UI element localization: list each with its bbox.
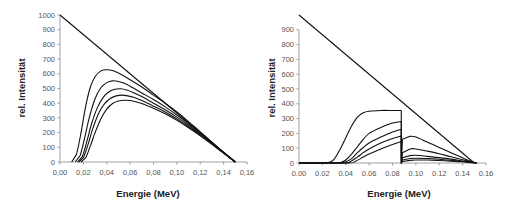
chart-right-x-tick-label: 0.10	[409, 169, 424, 178]
chart-right-y-tick-label: 900	[281, 25, 294, 34]
chart-left-y-tick-label: 1000	[38, 11, 55, 20]
chart-left-series-filter-3	[78, 89, 236, 162]
chart-right-x-tick-label: 0.14	[455, 169, 470, 178]
chart-left-y-tick-label: 300	[42, 114, 55, 123]
chart-right-y-tick-label: 200	[281, 129, 294, 138]
chart-right-series-filter-1	[299, 110, 477, 163]
chart-left-x-tick-label: 0,08	[146, 168, 161, 177]
chart-left-y-tick-label: 200	[42, 128, 55, 137]
chart-left-y-tick-label: 700	[42, 55, 55, 64]
chart-left-x-tick-label: 0,12	[193, 168, 208, 177]
chart-left-x-tick-label: 0,16	[240, 168, 255, 177]
chart-left-x-tick-label: 0,06	[123, 168, 138, 177]
chart-right-x-tick-label: 0.08	[385, 169, 400, 178]
chart-right-xlabel: Energie (MeV)	[367, 188, 430, 199]
chart-right-x-tick-label: 0.02	[315, 169, 330, 178]
chart-left-x-tick-label: 0,04	[99, 168, 114, 177]
chart-left-panel: rel. Intensität Energie (MeV) 0100200300…	[16, 11, 254, 199]
chart-left-y-tick-label: 900	[42, 25, 55, 34]
chart-right-ylabel: rel. Intensität	[266, 58, 277, 118]
chart-left-x-tick-label: 0,02	[76, 168, 91, 177]
chart-left-x-tick-label: 0,14	[216, 168, 231, 177]
chart-right-x-tick-label: 0.12	[432, 169, 447, 178]
chart-left-y-tick-label: 600	[42, 69, 55, 78]
chart-left-series-filter-5	[81, 100, 235, 162]
chart-right-y-tick-label: 600	[281, 70, 294, 79]
chart-right-x-tick-label: 0.04	[338, 169, 353, 178]
chart-left-y-tick-label: 0	[51, 158, 55, 167]
chart-right-y-tick-label: 800	[281, 40, 294, 49]
chart-right-x-tick-label: 0.06	[362, 169, 377, 178]
chart-right-panel: rel. Intensität Energie (MeV) 0100200300…	[266, 15, 493, 199]
chart-left-y-tick-label: 400	[42, 99, 55, 108]
chart-right-y-tick-label: 300	[281, 114, 294, 123]
chart-right-y-tick-label: 0	[290, 159, 294, 168]
chart-left-x-tick-label: 0,10	[170, 168, 185, 177]
chart-left-x-tick-label: 0,00	[53, 168, 68, 177]
chart-left-y-tick-label: 500	[42, 84, 55, 93]
chart-right-y-tick-label: 400	[281, 99, 294, 108]
chart-figure: rel. Intensität Energie (MeV) 0100200300…	[0, 0, 513, 209]
chart-right-y-tick-label: 700	[281, 55, 294, 64]
chart-right-x-tick-label: 0.00	[292, 169, 307, 178]
chart-left-series-filter-1	[72, 70, 236, 162]
chart-left-y-tick-label: 800	[42, 40, 55, 49]
chart-left-y-tick-label: 100	[42, 143, 55, 152]
chart-right-x-tick-label: 0.16	[479, 169, 494, 178]
chart-right-y-tick-label: 100	[281, 144, 294, 153]
chart-left-xlabel: Energie (MeV)	[116, 188, 179, 199]
chart-left-ylabel: rel. Intensität	[16, 58, 27, 118]
chart-right-y-tick-label: 500	[281, 85, 294, 94]
